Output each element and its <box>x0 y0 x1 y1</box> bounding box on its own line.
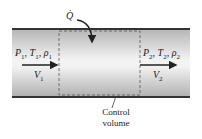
outlet-velocity-label: V2 <box>153 70 163 83</box>
control-volume-label: Controlvolume <box>86 107 146 129</box>
inlet-velocity-label: V1 <box>34 70 44 83</box>
inlet-properties-label: P1, T1, ρ1 <box>15 48 52 61</box>
heat-rate-label: Q̇ <box>66 11 73 21</box>
pipe-body <box>12 29 190 97</box>
outlet-properties-label: P2, T2, ρ2 <box>143 48 180 61</box>
